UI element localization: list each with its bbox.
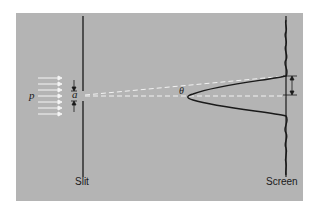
intensity-curve (188, 20, 287, 175)
incident-wave-arrows (38, 76, 62, 116)
screen-label: Screen (266, 176, 298, 187)
slit-width-label: a (72, 88, 78, 100)
dashed-rays (85, 76, 286, 96)
angle-label: θ (179, 85, 184, 96)
fringe-distance-arrow (283, 76, 297, 95)
momentum-label: p (29, 89, 35, 101)
slit-label: Slit (75, 176, 89, 187)
